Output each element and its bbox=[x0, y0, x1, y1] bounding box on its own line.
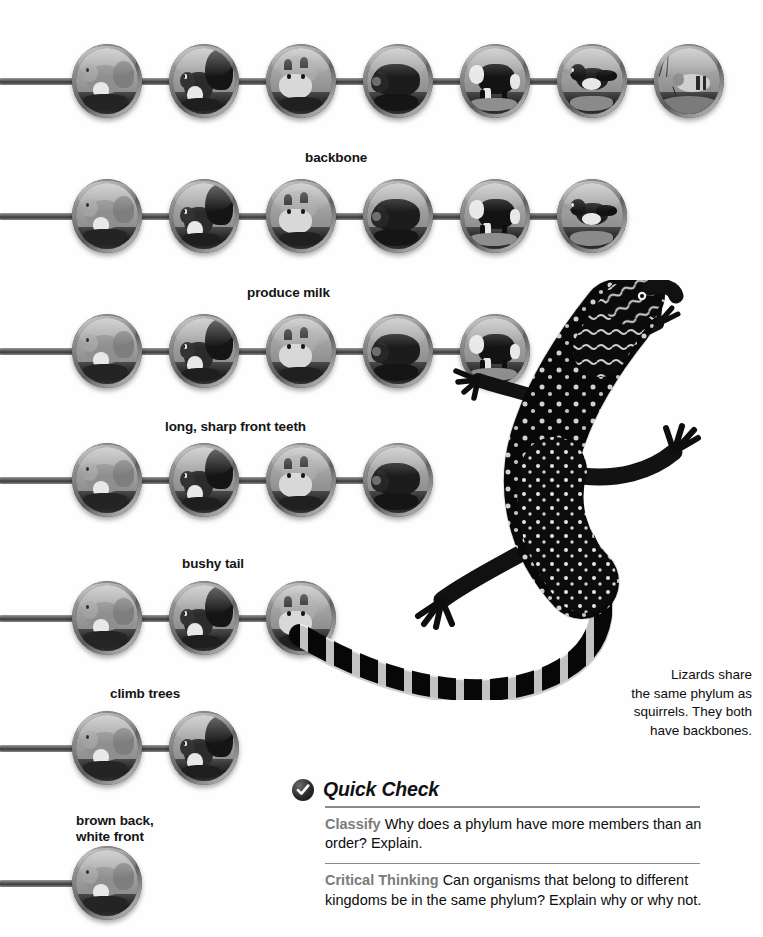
animal-medallion bbox=[460, 179, 530, 253]
animal-medallion bbox=[169, 314, 239, 388]
animal-art-chipmunk bbox=[76, 850, 138, 916]
quick-check-item: Classify Why does a phylum have more mem… bbox=[325, 808, 705, 863]
row-label: bushy tail bbox=[182, 556, 244, 572]
animal-art-fox bbox=[270, 183, 332, 249]
checkmark-icon bbox=[292, 779, 314, 801]
lizard-photo bbox=[282, 280, 702, 700]
animal-medallion bbox=[72, 179, 142, 253]
question-text: Why does a phylum have more members than… bbox=[325, 816, 701, 852]
animal-art-chipmunk bbox=[76, 585, 138, 651]
quick-check-item: Critical Thinking Can organisms that bel… bbox=[325, 864, 705, 919]
animal-medallion bbox=[169, 581, 239, 655]
classification-bar bbox=[0, 615, 301, 622]
animal-medallion bbox=[72, 443, 142, 517]
quick-check-header: Quick Check bbox=[292, 778, 712, 801]
animal-medallion bbox=[169, 443, 239, 517]
row-label: climb trees bbox=[110, 686, 180, 702]
animal-art-squirrel bbox=[173, 715, 235, 781]
animal-art-chipmunk bbox=[76, 318, 138, 384]
animal-medallion bbox=[169, 711, 239, 785]
animal-art-squirrel bbox=[173, 183, 235, 249]
animal-art-bear bbox=[367, 48, 429, 114]
animal-medallion bbox=[72, 581, 142, 655]
animal-medallion bbox=[557, 44, 627, 118]
animal-art-cow bbox=[464, 183, 526, 249]
row-label: brown back, white front bbox=[76, 813, 154, 844]
animal-art-squirrel bbox=[173, 447, 235, 513]
animal-art-squirrel bbox=[173, 48, 235, 114]
animal-medallion bbox=[72, 44, 142, 118]
animal-medallion bbox=[72, 846, 142, 920]
lizard-caption: Lizards share the same phylum as squirre… bbox=[556, 666, 752, 740]
animal-art-bear bbox=[367, 183, 429, 249]
quick-check-box: Quick Check Classify Why does a phylum h… bbox=[292, 778, 712, 919]
question-lead: Classify bbox=[325, 816, 381, 832]
animal-medallion bbox=[169, 179, 239, 253]
animal-medallion bbox=[266, 44, 336, 118]
row-label: backbone bbox=[305, 150, 367, 166]
animal-art-bird bbox=[561, 183, 623, 249]
animal-art-squirrel bbox=[173, 585, 235, 651]
question-lead: Critical Thinking bbox=[325, 872, 439, 888]
animal-art-chipmunk bbox=[76, 715, 138, 781]
textbook-page: backboneproduce milklong, sharp front te… bbox=[0, 0, 763, 937]
animal-medallion bbox=[654, 44, 724, 118]
animal-art-bird bbox=[561, 48, 623, 114]
animal-medallion bbox=[266, 179, 336, 253]
animal-medallion bbox=[363, 179, 433, 253]
animal-medallion bbox=[169, 44, 239, 118]
quick-check-title: Quick Check bbox=[323, 778, 439, 801]
animal-art-insect bbox=[658, 48, 720, 114]
animal-art-chipmunk bbox=[76, 183, 138, 249]
animal-medallion bbox=[363, 44, 433, 118]
animal-art-fox bbox=[270, 48, 332, 114]
animal-art-cow bbox=[464, 48, 526, 114]
animal-medallion bbox=[72, 711, 142, 785]
animal-art-chipmunk bbox=[76, 447, 138, 513]
animal-medallion bbox=[460, 44, 530, 118]
animal-medallion bbox=[557, 179, 627, 253]
animal-medallion bbox=[72, 314, 142, 388]
animal-art-squirrel bbox=[173, 318, 235, 384]
animal-art-chipmunk bbox=[76, 48, 138, 114]
